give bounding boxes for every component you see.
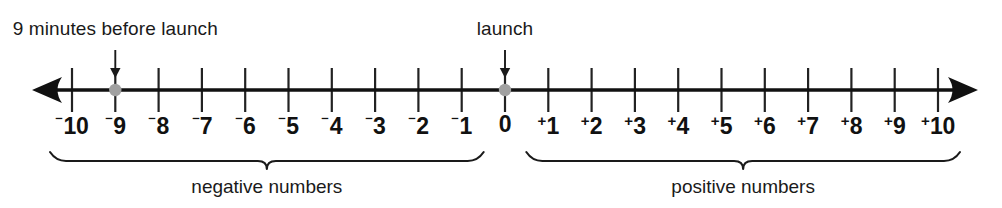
tick-label-value: 10 bbox=[930, 113, 955, 139]
tick-label-sign: ⁻ bbox=[365, 112, 373, 129]
tick-label-pos1: +1 bbox=[538, 113, 559, 138]
tick-label-value: 8 bbox=[156, 113, 169, 139]
tick-label-sign: + bbox=[667, 112, 675, 129]
number-line-figure: ⁻10⁻9⁻8⁻7⁻6⁻5⁻4⁻3⁻2⁻10+1+2+3+4+5+6+7+8+9… bbox=[0, 0, 1002, 208]
tick-label-sign: + bbox=[921, 112, 929, 129]
brace-positive bbox=[526, 152, 960, 169]
tick-label-value: 1 bbox=[547, 113, 560, 139]
annotation-arrows-layer bbox=[110, 50, 510, 78]
tick-label-value: 4 bbox=[676, 113, 689, 139]
tick-label-sign: ⁻ bbox=[278, 112, 286, 129]
tick-label-neg2: ⁻2 bbox=[408, 113, 429, 138]
annotation-arrowhead-icon bbox=[110, 68, 120, 78]
tick-label-sign: ⁻ bbox=[408, 112, 416, 129]
braces-layer bbox=[50, 152, 960, 169]
tick-label-sign: + bbox=[841, 112, 849, 129]
tick-label-neg1: ⁻1 bbox=[451, 113, 472, 138]
tick-label-pos10: +10 bbox=[921, 113, 955, 138]
brace-caption: positive numbers bbox=[671, 176, 815, 198]
tick-label-pos7: +7 bbox=[797, 113, 818, 138]
tick-label-neg10: ⁻10 bbox=[55, 113, 88, 138]
tick-label-value: 9 bbox=[893, 113, 906, 139]
tick-label-value: 7 bbox=[200, 113, 213, 139]
tick-label-sign: + bbox=[754, 112, 762, 129]
tick-label-value: 5 bbox=[720, 113, 733, 139]
tick-label-pos8: +8 bbox=[841, 113, 862, 138]
tick-label-pos3: +3 bbox=[624, 113, 645, 138]
tick-label-sign: ⁻ bbox=[321, 112, 329, 129]
tick-label-pos2: +2 bbox=[581, 113, 602, 138]
tick-label-sign: ⁻ bbox=[105, 112, 113, 129]
tick-label-neg9: ⁻9 bbox=[105, 113, 126, 138]
tick-label-sign: + bbox=[884, 112, 892, 129]
tick-label-sign: ⁻ bbox=[451, 112, 459, 129]
tick-label-value: 2 bbox=[416, 113, 429, 139]
tick-label-neg8: ⁻8 bbox=[148, 113, 169, 138]
tick-label-sign: + bbox=[797, 112, 805, 129]
tick-label-sign: + bbox=[624, 112, 632, 129]
tick-label-neg7: ⁻7 bbox=[192, 113, 213, 138]
tick-label-value: 2 bbox=[590, 113, 603, 139]
tick-label-sign: + bbox=[711, 112, 719, 129]
callout-label: launch bbox=[477, 18, 534, 40]
tick-label-value: 8 bbox=[850, 113, 863, 139]
tick-label-value: 0 bbox=[499, 111, 512, 137]
tick-label-value: 10 bbox=[64, 113, 89, 139]
left-arrowhead-icon bbox=[32, 77, 62, 103]
tick-label-value: 7 bbox=[806, 113, 819, 139]
tick-label-value: 6 bbox=[763, 113, 776, 139]
tick-label-sign: ⁻ bbox=[55, 112, 63, 129]
tick-label-zero0: 0 bbox=[499, 113, 512, 136]
tick-label-value: 1 bbox=[460, 113, 473, 139]
tick-label-sign: ⁻ bbox=[235, 112, 243, 129]
tick-label-value: 5 bbox=[286, 113, 299, 139]
tick-label-pos6: +6 bbox=[754, 113, 775, 138]
tick-label-neg5: ⁻5 bbox=[278, 113, 299, 138]
annotation-arrowhead-icon bbox=[500, 68, 510, 78]
tick-label-sign: ⁻ bbox=[148, 112, 156, 129]
tick-label-value: 4 bbox=[330, 113, 343, 139]
tick-label-value: 9 bbox=[113, 113, 126, 139]
tick-label-neg3: ⁻3 bbox=[365, 113, 386, 138]
tick-label-value: 6 bbox=[243, 113, 256, 139]
tick-label-pos4: +4 bbox=[667, 113, 688, 138]
tick-label-pos9: +9 bbox=[884, 113, 905, 138]
right-arrowhead-icon bbox=[948, 77, 978, 103]
tick-label-pos5: +5 bbox=[711, 113, 732, 138]
tick-label-sign: ⁻ bbox=[192, 112, 200, 129]
tick-label-sign: + bbox=[581, 112, 589, 129]
point-marker-nine-minutes-before-launch bbox=[109, 84, 121, 96]
callout-label: 9 minutes before launch bbox=[13, 18, 218, 40]
tick-label-value: 3 bbox=[373, 113, 386, 139]
tick-label-neg6: ⁻6 bbox=[235, 113, 256, 138]
tick-label-value: 3 bbox=[633, 113, 646, 139]
brace-caption: negative numbers bbox=[191, 176, 342, 198]
tick-label-neg4: ⁻4 bbox=[321, 113, 342, 138]
point-marker-launch bbox=[499, 84, 511, 96]
tick-label-sign: + bbox=[538, 112, 546, 129]
brace-negative bbox=[50, 152, 484, 169]
